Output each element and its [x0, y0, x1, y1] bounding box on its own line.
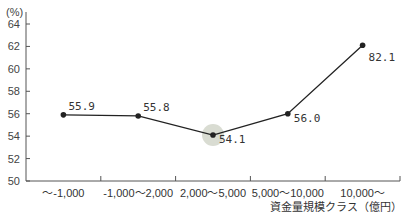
data-label: 54.1	[219, 133, 246, 146]
data-label: 55.8	[143, 101, 170, 114]
x-axis-title: 資金量規模クラス（億円）	[270, 200, 402, 212]
y-tick-label: 54	[8, 130, 20, 142]
plot-area: 55.955.854.156.082.1	[61, 43, 396, 147]
y-tick-label: 58	[8, 85, 20, 97]
y-tick-label: 62	[8, 40, 20, 52]
data-point	[210, 132, 216, 138]
data-point	[285, 111, 291, 117]
y-tick-label: 52	[8, 153, 20, 165]
data-point	[61, 112, 67, 118]
line-chart: (%)5052545658606264～-1,000-1,000～2,0002,…	[0, 0, 406, 212]
y-tick-label: 64	[8, 18, 20, 30]
x-category-label: ～-1,000	[42, 187, 84, 199]
data-point	[135, 113, 141, 119]
y-tick-label: 50	[8, 175, 20, 187]
data-label: 56.0	[294, 112, 321, 125]
y-tick-label: 60	[8, 63, 20, 75]
x-category-label: 5,000～10,000	[252, 187, 324, 199]
data-label: 55.9	[68, 100, 95, 113]
axes: (%)5052545658606264～-1,000-1,000～2,0002,…	[6, 6, 402, 212]
y-axis-unit: (%)	[6, 6, 23, 18]
y-tick-label: 56	[8, 108, 20, 120]
x-category-label: 10,000～	[340, 187, 385, 199]
data-point	[360, 43, 366, 49]
x-category-label: 2,000～5,000	[180, 187, 246, 199]
data-label: 82.1	[369, 51, 396, 64]
x-category-label: -1,000～2,000	[103, 187, 173, 199]
